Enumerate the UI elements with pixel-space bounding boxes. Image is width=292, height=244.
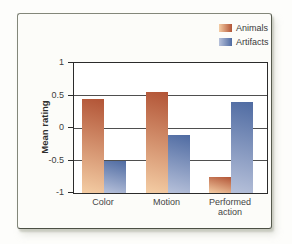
y-tick-label-1: 1 (32, 57, 64, 68)
plot-area (73, 62, 268, 194)
bar-artifacts-1 (168, 135, 190, 194)
legend-swatch-0 (219, 24, 232, 32)
y-tick-0 (68, 127, 73, 128)
x-label-2: Performed action (198, 197, 262, 217)
y-tick-1 (68, 62, 73, 63)
legend-swatch-1 (219, 38, 232, 46)
x-label-0: Color (71, 197, 135, 207)
y-tick-label--0.5: -0.5 (32, 155, 64, 166)
bar-artifacts-2 (231, 102, 253, 193)
gridline-0.5 (74, 95, 267, 96)
y-tick-0.5 (68, 95, 73, 96)
y-tick-label-0: 0 (32, 122, 64, 133)
y-tick--1 (68, 192, 73, 193)
bar-animals-1 (146, 92, 168, 193)
figure-panel: Animals Artifacts Mean rating 10.50-0.5-… (17, 13, 272, 229)
legend: Animals Artifacts (219, 23, 269, 51)
x-label-1: Motion (135, 197, 199, 207)
bar-artifacts-0 (104, 161, 126, 194)
legend-label-animals: Animals (236, 23, 268, 33)
legend-item-artifacts: Artifacts (219, 37, 269, 46)
y-tick--0.5 (68, 160, 73, 161)
legend-item-animals: Animals (219, 23, 269, 32)
bar-animals-2 (209, 177, 231, 193)
y-tick-label--1: -1 (32, 187, 64, 198)
page-background: { "colors": { "panel_background": "#fcfc… (0, 0, 292, 244)
bar-animals-0 (82, 99, 104, 193)
y-tick-label-0.5: 0.5 (32, 90, 64, 101)
legend-label-artifacts: Artifacts (236, 37, 269, 47)
